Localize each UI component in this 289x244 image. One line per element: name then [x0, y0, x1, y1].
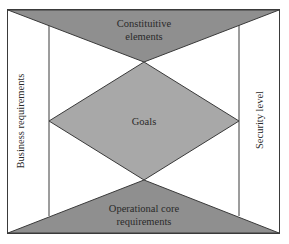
bottom-triangle-label-line-1: Operational core	[109, 203, 180, 214]
security-framework-diagram: Constituitive elements Goals Operational…	[0, 0, 289, 244]
top-triangle-label-line-1: Constituitive	[117, 18, 172, 29]
top-triangle-label-line-2: elements	[125, 31, 162, 42]
left-side-label: Business requirements	[15, 74, 26, 169]
right-side-label: Security level	[254, 91, 265, 149]
bottom-triangle-label-line-2: requirements	[117, 216, 172, 227]
center-diamond-label: Goals	[132, 116, 157, 127]
